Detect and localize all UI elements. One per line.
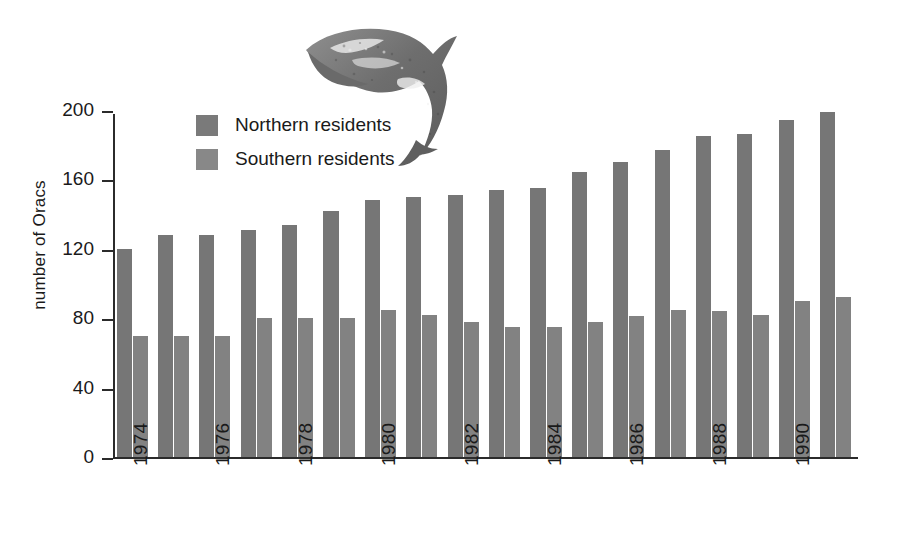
x-tick-label-1982: 1982 [461, 423, 483, 466]
bar-southern-1979 [340, 318, 355, 457]
bar-northern-1987 [655, 150, 670, 457]
bar-northern-1980 [365, 200, 380, 457]
x-tick-label-1974: 1974 [130, 423, 152, 466]
legend-swatch-southern-icon [196, 149, 218, 170]
x-tick-label-1988: 1988 [709, 423, 731, 466]
legend-swatch-northern-icon [196, 115, 218, 136]
x-tick-label-1978: 1978 [295, 423, 317, 466]
bar-northern-1981 [406, 197, 421, 457]
bar-southern-1989 [753, 315, 768, 457]
y-tick-label-0: 0 [83, 446, 94, 468]
legend-label-northern: Northern residents [235, 114, 391, 136]
y-tick-0: 0 [102, 458, 113, 460]
y-axis-line [113, 114, 115, 458]
x-tick-label-1984: 1984 [544, 423, 566, 466]
y-tick-label-200: 200 [62, 99, 94, 121]
legend-item-northern: Northern residents [196, 108, 395, 142]
bar-northern-1989 [737, 134, 752, 457]
bar-southern-1975 [174, 336, 189, 457]
bar-northern-1990 [779, 120, 794, 457]
bar-northern-1985 [572, 172, 587, 457]
bar-northern-1988 [696, 136, 711, 457]
bar-southern-1985 [588, 322, 603, 457]
bar-northern-1977 [241, 230, 256, 457]
bar-northern-1984 [530, 188, 545, 457]
bar-southern-1981 [422, 315, 437, 457]
bar-northern-1986 [613, 162, 628, 457]
bar-southern-1977 [257, 318, 272, 457]
legend-item-southern: Southern residents [196, 142, 395, 176]
y-tick-label-160: 160 [62, 168, 94, 190]
chart-legend: Northern residents Southern residents [196, 108, 395, 176]
x-tick-label-1980: 1980 [378, 423, 400, 466]
bar-northern-1979 [323, 211, 338, 457]
y-tick-label-40: 40 [73, 377, 94, 399]
y-axis-label: number of Oracs [30, 135, 50, 355]
y-tick-200: 200 [102, 111, 113, 113]
y-tick-120: 120 [102, 250, 113, 252]
x-tick-label-1990: 1990 [792, 423, 814, 466]
bar-northern-1975 [158, 235, 173, 457]
x-tick-label-1976: 1976 [212, 423, 234, 466]
y-tick-label-80: 80 [73, 307, 94, 329]
y-tick-40: 40 [102, 389, 113, 391]
bar-southern-1991 [836, 297, 851, 457]
bar-northern-1982 [448, 195, 463, 457]
y-tick-160: 160 [102, 180, 113, 182]
bar-northern-1983 [489, 190, 504, 457]
legend-label-southern: Southern residents [235, 148, 395, 170]
bar-southern-1987 [671, 310, 686, 457]
y-tick-80: 80 [102, 319, 113, 321]
bar-southern-1983 [505, 327, 520, 457]
chart-figure: number of Oracs 04080120160200 197419761… [0, 0, 910, 536]
x-tick-label-1986: 1986 [626, 423, 648, 466]
y-tick-label-120: 120 [62, 238, 94, 260]
bar-northern-1991 [820, 112, 835, 457]
